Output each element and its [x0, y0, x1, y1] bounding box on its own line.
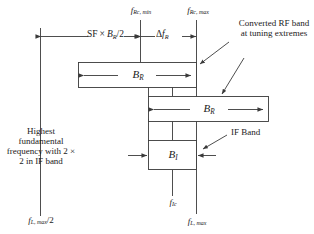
- label-frc-max: fRc, max: [176, 5, 220, 16]
- diagram-canvas: fRc, min fRc, max SF×BR/2 ΔfR BR BR BI C…: [0, 0, 314, 234]
- leader-converted-rf-upper: [200, 42, 229, 64]
- label-br-sub: L, max: [190, 220, 206, 226]
- label-if-sub: I: [175, 154, 177, 162]
- label-frc-min: fRc, min: [120, 5, 162, 16]
- label-bottom-left: fL, max/2: [16, 215, 66, 226]
- label-rf-bot-sub: R: [210, 108, 214, 116]
- label-rf-box-bottom: BR: [189, 102, 229, 116]
- label-delta-span: ΔfR: [156, 29, 169, 40]
- annotation-converted-rf: Converted RF band at tuning extremes: [238, 18, 310, 38]
- label-if-box: BI: [153, 148, 193, 162]
- label-rf-top-sub: R: [139, 74, 143, 82]
- label-bottom-right: fL, max: [176, 216, 218, 227]
- leader-converted-rf-lower: [222, 58, 244, 94]
- label-bc-sub: Ic: [172, 201, 177, 207]
- label-rf-box-top: BR: [118, 68, 158, 82]
- label-bl-sub: L, max: [31, 219, 47, 225]
- label-sf-prefix: SF: [87, 29, 98, 39]
- label-frc-max-sub: Rc, max: [190, 9, 209, 15]
- leader-if-band: [203, 135, 227, 149]
- label-bl-suffix: /2: [47, 215, 54, 225]
- label-sf-times: ×: [98, 29, 107, 39]
- label-bottom-center: fIc: [158, 197, 188, 208]
- annotation-highest-fundamental: Highest fundamental frequency with 2 × 2…: [4, 126, 78, 166]
- label-delta-sub: R: [165, 33, 169, 40]
- label-sf-span: SF×BR/2: [87, 29, 124, 40]
- annotation-if-band: IF Band: [231, 127, 260, 137]
- label-sf-suffix: /2: [117, 29, 124, 39]
- label-frc-min-sub: Rc, min: [133, 9, 151, 15]
